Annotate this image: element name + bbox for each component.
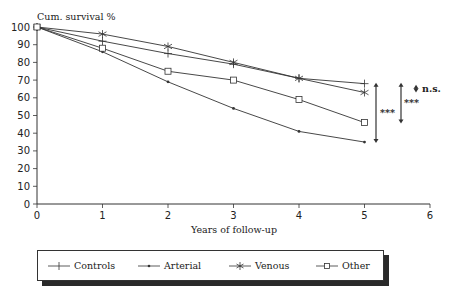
legend-label: Controls (74, 260, 115, 271)
significance-label: *** (380, 107, 395, 118)
x-tick-label: 2 (165, 210, 171, 221)
y-tick-label: 100 (11, 22, 30, 33)
y-tick-label: 70 (17, 75, 30, 86)
x-tick-label: 6 (427, 210, 433, 221)
significance-label: n.s. (422, 83, 441, 94)
x-tick-label: 3 (230, 210, 236, 221)
legend-item-venous: Venous (229, 251, 289, 280)
y-tick-label: 50 (17, 110, 30, 121)
significance-bracket: *** (374, 83, 395, 143)
y-axis-title: Cum. survival % (37, 11, 116, 22)
legend-label: Other (342, 260, 370, 271)
y-tick-label: 10 (17, 181, 30, 192)
legend-item-arterial: Arterial (138, 251, 201, 280)
legend-label: Arterial (164, 260, 201, 271)
series-lines (33, 23, 369, 143)
y-tick-label: 60 (17, 92, 30, 103)
legend: Controls Arterial Venous Other (37, 250, 384, 281)
significance-bracket: n.s. (414, 83, 441, 94)
y-tick-label: 40 (17, 128, 30, 139)
x-tick-label: 0 (34, 210, 40, 221)
y-tick-label: 0 (24, 199, 30, 210)
y-tick-label: 30 (17, 145, 30, 156)
x-tick-label: 4 (296, 210, 302, 221)
series-controls (33, 23, 369, 88)
series-other (34, 24, 368, 126)
square-marker-icon (316, 261, 338, 271)
axes: 01020304050607080901000123456 (11, 22, 433, 222)
dot-marker-icon (138, 261, 160, 271)
y-tick-label: 90 (17, 39, 30, 50)
x-tick-label: 5 (361, 210, 367, 221)
legend-item-other: Other (316, 251, 370, 280)
y-tick-label: 20 (17, 163, 30, 174)
asterisk-marker-icon (229, 261, 251, 271)
significance-annotations: ******n.s. (374, 83, 441, 143)
significance-label: *** (404, 97, 419, 108)
legend-item-controls: Controls (48, 251, 115, 280)
legend-label: Venous (255, 260, 289, 271)
x-axis-title: Years of follow-up (190, 224, 277, 235)
plus-marker-icon (48, 261, 70, 271)
x-tick-label: 1 (99, 210, 105, 221)
y-tick-label: 80 (17, 57, 30, 68)
series-arterial (36, 26, 366, 144)
series-venous (33, 23, 369, 96)
